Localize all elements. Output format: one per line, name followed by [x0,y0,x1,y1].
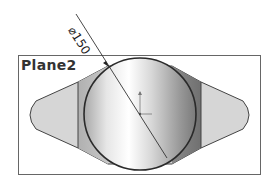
plane-label: Plane2 [21,57,77,73]
cad-viewport[interactable] [0,0,273,188]
